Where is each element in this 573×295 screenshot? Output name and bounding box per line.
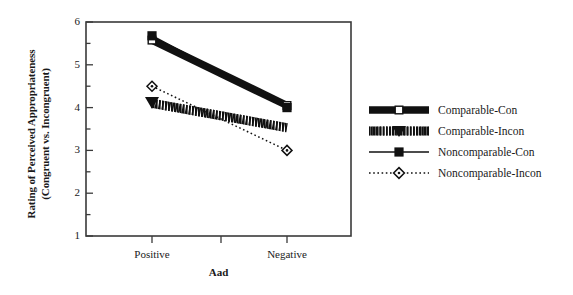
chart-legend: Comparable-Con Comparable-Incon Noncompa… (368, 99, 573, 183)
y-tick-label-6: 6 (64, 15, 80, 27)
series-comparable-incon (145, 97, 287, 128)
legend-item-comparable-incon: Comparable-Incon (368, 120, 573, 141)
legend-key-comparable-con (368, 102, 430, 118)
x-tick-label-positive: Positive (112, 248, 192, 260)
legend-label-noncomparable-incon: Noncomparable-Incon (430, 167, 541, 179)
y-axis-title-line1: Rating of Perceived Appropriateness (25, 50, 37, 219)
y-tick-label-2: 2 (64, 186, 80, 198)
y-axis-title-line2: (Congruent vs. Incongruent) (38, 19, 52, 249)
legend-key-comparable-incon (368, 123, 430, 139)
y-tick-label-3: 3 (64, 143, 80, 155)
x-tick-label-negative: Negative (247, 248, 327, 260)
legend-label-comparable-con: Comparable-Con (430, 104, 517, 116)
legend-key-noncomparable-con (368, 144, 430, 160)
chart-figure: 6 5 4 3 2 1 Positive Negative Rating of … (0, 0, 573, 295)
plot-frame (86, 22, 351, 236)
y-tick-label-1: 1 (64, 229, 80, 241)
legend-label-comparable-incon: Comparable-Incon (430, 125, 524, 137)
legend-key-noncomparable-incon (368, 165, 430, 181)
x-axis-title: Aad (86, 266, 351, 278)
y-axis-ticks (86, 22, 93, 236)
legend-item-noncomparable-incon: Noncomparable-Incon (368, 162, 573, 183)
legend-label-noncomparable-con: Noncomparable-Con (430, 146, 534, 158)
y-tick-label-5: 5 (64, 58, 80, 70)
y-axis-title: Rating of Perceived Appropriateness (Con… (24, 19, 52, 249)
legend-item-comparable-con: Comparable-Con (368, 99, 573, 120)
y-tick-label-4: 4 (64, 101, 80, 113)
x-axis-ticks (152, 236, 287, 243)
legend-item-noncomparable-con: Noncomparable-Con (368, 141, 573, 162)
